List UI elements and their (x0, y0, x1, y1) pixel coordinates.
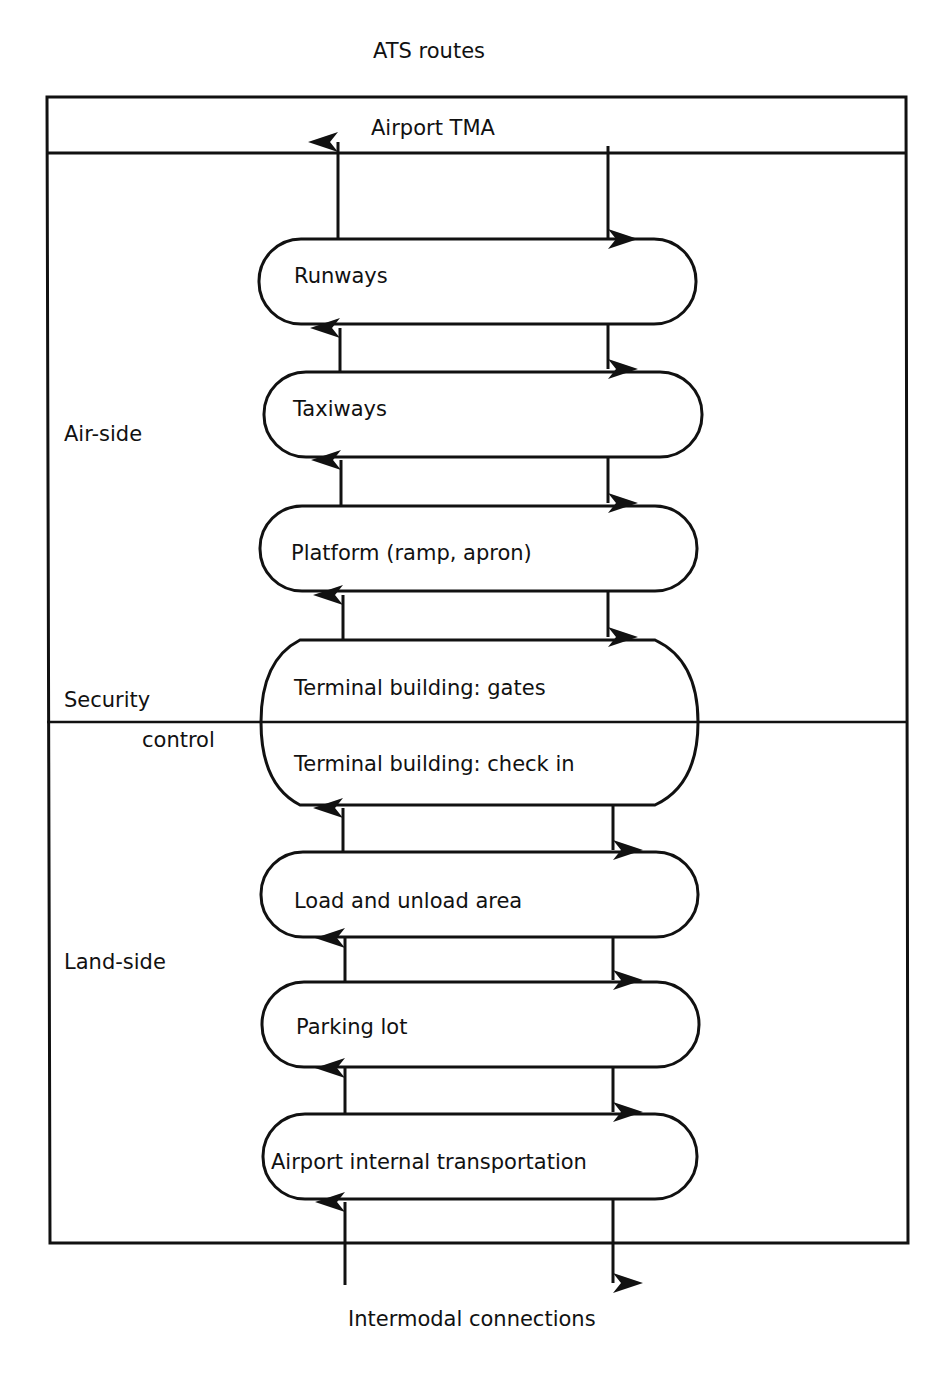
node-platform-label: Platform (ramp, apron) (291, 543, 532, 564)
node-terminal-checkin-label: Terminal building: check in (294, 754, 575, 775)
ats-routes-label: ATS routes (373, 41, 485, 62)
air-side-label: Air-side (64, 424, 142, 445)
outer-frame (47, 97, 908, 1243)
land-side-label: Land-side (64, 952, 166, 973)
security-label: Security (64, 690, 150, 711)
node-terminal-gates-label: Terminal building: gates (294, 678, 546, 699)
node-taxiways-label: Taxiways (293, 399, 387, 420)
node-parking-label: Parking lot (296, 1017, 407, 1038)
node-load-label: Load and unload area (294, 891, 522, 912)
control-label: control (142, 730, 215, 751)
airport-tma-label: Airport TMA (371, 118, 495, 139)
intermodal-label: Intermodal connections (348, 1309, 596, 1330)
node-runways-label: Runways (294, 266, 388, 287)
node-transport-label: Airport internal transportation (271, 1152, 587, 1173)
